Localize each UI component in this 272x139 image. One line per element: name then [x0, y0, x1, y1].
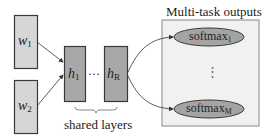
diagram-graphics: [0, 0, 272, 139]
multitask-diagram: w1 w2 h1 hR ··· shared layers Multi-task…: [0, 0, 272, 139]
layer-label-hR: hR: [107, 67, 120, 82]
softmaxM-label: softmaxM: [186, 102, 232, 116]
layers-ellipsis: ···: [88, 68, 100, 80]
arrow-w1-h1: [37, 42, 63, 62]
input-label-w2: w2: [18, 99, 32, 114]
outputs-ellipsis: ⋮: [206, 65, 219, 78]
arrow-w2-h1: [37, 75, 63, 106]
shared-layers-brace: [75, 107, 117, 113]
input-label-w1: w1: [18, 34, 32, 49]
shared-layers-label: shared layers: [64, 118, 132, 131]
outputs-title: Multi-task outputs: [166, 5, 262, 18]
softmax1-label: softmax1: [189, 30, 232, 44]
layer-label-h1: h1: [68, 67, 80, 82]
